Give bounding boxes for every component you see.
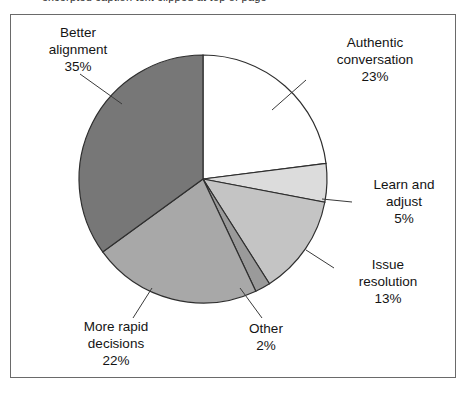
pie-value-authentic-conversation: 23% [310,68,440,85]
pie-chart-figure: excerpted caption text clipped at top of… [0,0,466,393]
pie-label-authentic-conversation-line2: conversation [310,51,440,68]
pie-label-more-rapid-decisions-line1: More rapid [52,318,180,335]
pie-label-issue-resolution: Issue resolution 13% [332,256,444,307]
pie-label-other-line1: Other [228,320,304,337]
pie-label-more-rapid-decisions: More rapid decisions 22% [52,318,180,369]
pie-label-issue-resolution-line2: resolution [332,273,444,290]
pie-label-other: Other 2% [228,320,304,354]
pie-label-better-alignment-line1: Better [18,24,138,41]
pie-label-learn-and-adjust-line1: Learn and [352,176,456,193]
pie-value-issue-resolution: 13% [332,290,444,307]
pie-value-other: 2% [228,337,304,354]
pie-label-issue-resolution-line1: Issue [332,256,444,273]
pie-label-better-alignment-line2: alignment [18,41,138,58]
pie-slices [79,55,327,303]
pie-value-more-rapid-decisions: 22% [52,352,180,369]
leader-line-learn-and-adjust [322,199,352,202]
pie-value-learn-and-adjust: 5% [352,210,456,227]
pie-label-more-rapid-decisions-line2: decisions [52,335,180,352]
pie-label-better-alignment: Better alignment 35% [18,24,138,75]
pie-label-authentic-conversation-line1: Authentic [310,34,440,51]
pie-label-learn-and-adjust-line2: adjust [352,193,456,210]
pie-value-better-alignment: 35% [18,58,138,75]
pie-label-learn-and-adjust: Learn and adjust 5% [352,176,456,227]
leader-line-issue-resolution [306,250,334,268]
leader-line-more-rapid-decisions [133,288,152,318]
leader-line-better-alignment [80,74,122,104]
pie-label-authentic-conversation: Authentic conversation 23% [310,34,440,85]
pie-slice-authentic-conversation[interactable] [203,55,326,179]
